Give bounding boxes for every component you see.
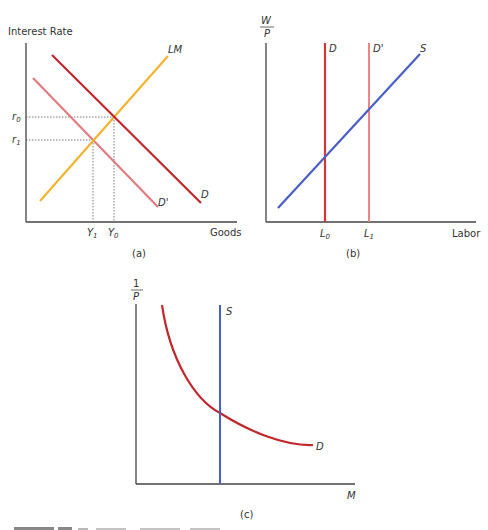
y-axis-label-1: 1 [133,278,139,289]
d-curve [52,55,201,203]
y-axis-label-p: P [133,291,140,302]
y1-label: Y1 [87,227,98,240]
y-axis-label-interest-rate: Interest Rate [8,26,73,37]
panel-a: Interest Rate LM D D' r0 r1 Y1 Y0 Goods … [8,26,242,259]
s-label: S [420,43,427,54]
d-prime-label: D' [373,43,383,54]
d-prime-label: D' [158,197,168,208]
panel-a-label: (a) [132,248,146,259]
y-axis-label-p: P [264,28,271,39]
y0-label: Y0 [108,227,119,240]
panel-b-label: (b) [346,248,360,259]
s-curve [278,54,420,208]
y-axis-label-w: W [261,15,272,26]
l1-label: L1 [364,228,374,241]
d-label: D [316,441,324,452]
d-label: D [201,189,209,200]
panel-c-label: (c) [240,509,253,520]
lm-curve [40,56,168,201]
figure: Interest Rate LM D D' r0 r1 Y1 Y0 Goods … [0,0,488,530]
x-axis-label-labor: Labor [452,228,481,239]
s-label: S [226,306,233,317]
panel-c: 1 P S D M (c) [131,278,356,520]
l0-label: L0 [320,228,331,241]
x-axis-label-m: M [347,490,356,501]
d-curve [162,305,313,445]
d-label: D [329,43,337,54]
r1-label: r1 [12,134,21,147]
x-axis-label-goods: Goods [210,227,242,238]
r0-label: r0 [12,111,21,124]
panel-b: W P D D' S L0 L1 Labor (b) [260,15,481,259]
lm-label: LM [168,44,183,55]
